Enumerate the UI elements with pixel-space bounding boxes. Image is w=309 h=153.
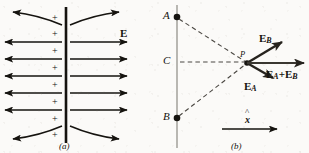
charge-plus-5: +	[52, 80, 58, 90]
physics-figure: + + + + + + + + E (a) A C B P EB EA EA+E…	[0, 0, 309, 153]
field-label-e: E	[120, 28, 127, 39]
charge-plus-6: +	[52, 97, 58, 107]
resultant-sub-2: B	[292, 72, 297, 81]
charge-plus-7: +	[52, 114, 58, 124]
figure-canvas	[0, 0, 309, 153]
charge-plus-8: +	[52, 130, 58, 140]
vector-label-ea-sub: A	[251, 84, 256, 93]
unit-vector-x-label: x	[245, 115, 250, 125]
vector-label-eb: EB	[259, 32, 272, 45]
label-point-b: B	[163, 111, 170, 122]
field-lines-right	[70, 42, 127, 110]
vector-label-ea-plus-eb: EA+EB	[266, 68, 298, 81]
dashed-lines	[179, 19, 246, 116]
charge-plus-3: +	[52, 46, 58, 56]
label-point-p: P	[240, 50, 245, 59]
label-point-c: C	[163, 55, 170, 66]
charge-plus-4: +	[52, 63, 58, 73]
caption-panel-b: (b)	[231, 141, 242, 151]
charge-plus-2: +	[52, 29, 58, 39]
vector-label-eb-sub: B	[266, 36, 271, 45]
vector-label-ea: EA	[244, 80, 257, 93]
charge-plus-1: +	[52, 13, 58, 23]
caption-panel-a: (a)	[59, 141, 70, 151]
label-point-a: A	[163, 10, 170, 21]
